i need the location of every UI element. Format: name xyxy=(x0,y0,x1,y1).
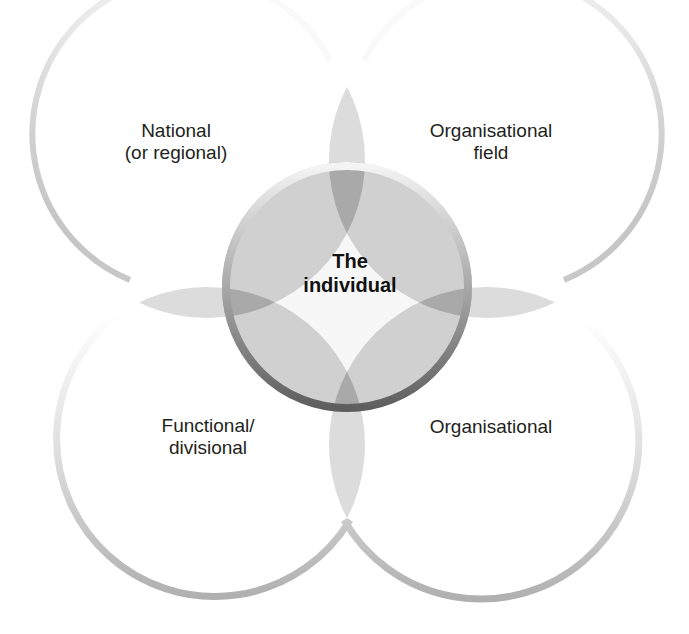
label-line: divisional xyxy=(162,437,255,459)
label-the-individual: The individual xyxy=(303,249,396,297)
label-line: (or regional) xyxy=(125,142,227,164)
circles-diagram xyxy=(0,0,689,634)
label-line: Functional/ xyxy=(162,415,255,437)
label-line: The xyxy=(303,249,396,273)
label-national: National (or regional) xyxy=(125,120,227,164)
label-line: field xyxy=(430,142,553,164)
label-line: individual xyxy=(303,273,396,297)
label-line: Organisational xyxy=(430,120,553,142)
label-organisational-field: Organisational field xyxy=(430,120,553,164)
label-line: Organisational xyxy=(430,416,553,438)
label-line: National xyxy=(125,120,227,142)
label-functional-divisional: Functional/ divisional xyxy=(162,415,255,459)
label-organisational: Organisational xyxy=(430,416,553,438)
